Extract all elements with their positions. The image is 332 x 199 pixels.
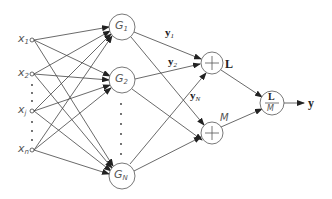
label-GN: GN: [114, 169, 128, 182]
input-node-x2: [30, 72, 34, 76]
edge-label-yN: yN: [190, 90, 200, 103]
divide-denominator: M: [267, 105, 274, 113]
input-label-x1: x1: [18, 33, 29, 46]
input-label-x2: x2: [18, 67, 29, 80]
input-label-xj: xj: [18, 104, 26, 117]
input-node-x1: [30, 38, 34, 42]
sum-output-label-L: L: [225, 58, 233, 70]
edge-label-y2: y2: [168, 56, 177, 69]
input-node-xj: [30, 109, 34, 113]
divide-numerator: L: [268, 92, 275, 102]
label-G2: G2: [115, 73, 128, 86]
label-G1: G1: [115, 20, 128, 33]
edge-label-y1: y1: [165, 27, 174, 40]
output-label-y: y: [308, 97, 314, 109]
input-node-xn: [30, 148, 34, 152]
sum-output-label-M: M: [220, 113, 229, 123]
neural-network-diagram: x1 x2 xj xn G1 G2 GN y1 y2 yN L M L M y: [0, 0, 332, 199]
input-label-xn: xn: [18, 143, 29, 156]
